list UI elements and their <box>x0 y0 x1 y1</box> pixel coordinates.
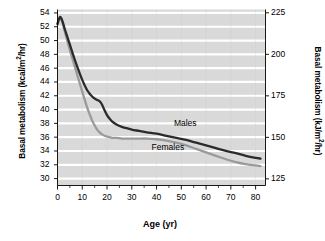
y-tick-label-left: 52 <box>26 21 50 31</box>
x-tick-label: 60 <box>194 192 218 202</box>
y-tick-label-left: 48 <box>26 49 50 59</box>
x-tick-label: 70 <box>219 192 243 202</box>
y-tick-label-right: 225 <box>271 7 297 17</box>
x-tick-label: 30 <box>120 192 144 202</box>
y-tick-label-left: 40 <box>26 104 50 114</box>
y-tick-label-left: 38 <box>26 118 50 128</box>
x-tick-label: 20 <box>95 192 119 202</box>
series-label-females: Females <box>152 142 185 152</box>
series-label-males: Males <box>174 118 197 128</box>
y-tick-label-left: 54 <box>26 7 50 17</box>
plot-background <box>58 10 266 186</box>
y-tick-label-right: 175 <box>271 90 297 100</box>
x-tick-label: 0 <box>46 192 70 202</box>
y-tick-label-left: 44 <box>26 76 50 86</box>
y-tick-label-left: 30 <box>26 173 50 183</box>
x-tick-label: 80 <box>244 192 268 202</box>
y-tick-label-right: 125 <box>271 173 297 183</box>
x-tick-label: 50 <box>169 192 193 202</box>
y-tick-label-left: 36 <box>26 132 50 142</box>
x-tick-label: 10 <box>70 192 94 202</box>
y-tick-label-left: 50 <box>26 35 50 45</box>
x-tick-label: 40 <box>145 192 169 202</box>
y-tick-label-left: 32 <box>26 159 50 169</box>
y-tick-label-left: 46 <box>26 63 50 73</box>
y-tick-label-right: 200 <box>271 49 297 59</box>
y-tick-label-left: 42 <box>26 90 50 100</box>
y-tick-label-right: 150 <box>271 132 297 142</box>
y-tick-label-left: 34 <box>26 145 50 155</box>
